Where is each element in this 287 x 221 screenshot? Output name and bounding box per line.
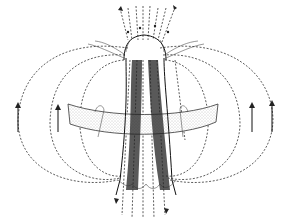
field-diagram [0,0,287,221]
diagram-canvas [0,0,287,221]
top-arrows [118,5,177,33]
torus-band [68,104,218,137]
